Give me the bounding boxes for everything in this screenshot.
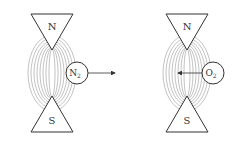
left-magnet-setup: N S N2 [28, 14, 115, 132]
north-pole [166, 14, 208, 50]
north-pole [31, 14, 73, 50]
south-label: S [49, 115, 56, 126]
right-magnet-setup: N S O2 [163, 14, 224, 132]
north-label: N [183, 21, 192, 32]
south-pole [166, 96, 208, 132]
south-pole [31, 96, 73, 132]
magnet-diagram: N S N2 N S O2 [0, 0, 234, 146]
north-label: N [48, 21, 57, 32]
south-label: S [184, 115, 191, 126]
